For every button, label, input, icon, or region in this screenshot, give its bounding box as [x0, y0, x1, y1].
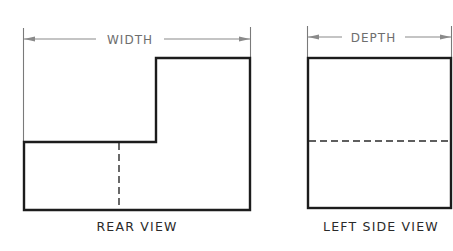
arrowhead-left-icon — [24, 37, 35, 42]
rear-view-outline — [24, 58, 250, 210]
depth-dimension: DEPTH — [308, 31, 451, 45]
depth-dimension-label: DEPTH — [351, 31, 396, 45]
width-dimension: WIDTH — [24, 33, 250, 47]
arrowhead-right-icon — [440, 35, 451, 40]
left-side-view-outline — [308, 58, 451, 208]
width-dimension-label: WIDTH — [107, 33, 153, 47]
arrowhead-right-icon — [239, 37, 250, 42]
left-side-view-label: LEFT SIDE VIEW — [323, 219, 439, 234]
rear-view: WIDTH REAR VIEW — [24, 27, 251, 234]
rear-view-label: REAR VIEW — [96, 219, 177, 234]
multiview-drawing: WIDTH REAR VIEW DEPTH LEFT SIDE VIEW — [0, 0, 453, 251]
left-side-view: DEPTH LEFT SIDE VIEW — [308, 26, 452, 234]
arrowhead-left-icon — [308, 35, 319, 40]
